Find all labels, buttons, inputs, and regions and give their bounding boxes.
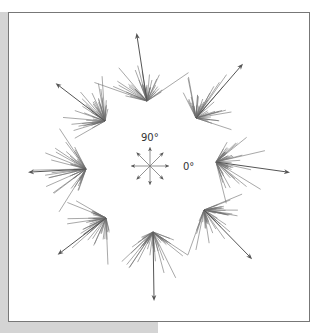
line-bundles xyxy=(31,36,287,298)
bundle--45deg xyxy=(188,194,250,257)
mean-direction-arrow xyxy=(58,85,105,121)
mean-direction-arrow xyxy=(60,218,106,253)
bundle--135deg xyxy=(60,201,109,265)
legend-arrow-225deg xyxy=(138,166,150,178)
bundle-90deg xyxy=(94,36,188,101)
direction-tuning-diagram: 90° 0° xyxy=(0,0,320,333)
bundle--90deg xyxy=(122,232,188,298)
legend-arrow-135deg xyxy=(138,154,150,166)
bundle-0deg xyxy=(216,137,287,203)
bundle-45deg xyxy=(183,66,241,130)
legend-label-0: 0° xyxy=(183,161,194,172)
mean-direction-arrow xyxy=(204,210,250,257)
legend-arrow-45deg xyxy=(150,154,162,166)
mean-direction-arrow xyxy=(196,66,241,118)
bundle-180deg xyxy=(31,129,86,212)
direction-legend: 90° 0° xyxy=(133,132,194,183)
legend-arrow-315deg xyxy=(150,166,162,178)
bundle-135deg xyxy=(58,76,108,138)
legend-label-90: 90° xyxy=(141,132,159,143)
